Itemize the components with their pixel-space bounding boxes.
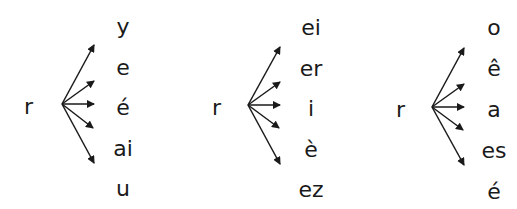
ending-label: ai	[113, 138, 133, 160]
ending-label: o	[487, 17, 500, 39]
ending-label: er	[300, 58, 323, 80]
ending-label: è	[304, 139, 318, 161]
ending-label: a	[487, 99, 500, 121]
ending-label: e	[116, 57, 130, 79]
ending-label: es	[482, 140, 507, 162]
arrow-fan-icon	[180, 0, 350, 209]
arrow-fan-icon	[0, 0, 170, 209]
ending-label: ei	[301, 17, 321, 39]
ending-label: ê	[487, 58, 501, 80]
ending-label: y	[116, 16, 129, 38]
ending-label: é	[116, 97, 130, 119]
ending-label: i	[308, 98, 314, 120]
ending-label: u	[116, 178, 130, 200]
fan-group-3: r o ê a es é	[360, 0, 517, 209]
fan-group-1: r y e é ai u	[0, 0, 170, 209]
ending-label: ez	[298, 179, 323, 201]
ending-label: é	[487, 181, 501, 203]
fan-group-2: r ei er i è ez	[180, 0, 350, 209]
